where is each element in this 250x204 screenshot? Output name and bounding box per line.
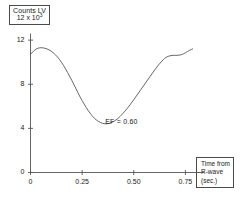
x-axis-tick-label: 0.50	[119, 178, 149, 185]
chart-annotation: EF = 0.60	[105, 118, 137, 125]
data-series-line	[31, 48, 193, 124]
y-axis-tick-label: 12	[17, 36, 25, 43]
y-axis-tick-label: 8	[21, 80, 25, 87]
axis-lines	[31, 34, 205, 173]
y-axis-tick-label: 4	[21, 124, 25, 131]
y-axis-tick-label: 0	[21, 168, 25, 175]
x-axis-tick-label: 0	[16, 178, 46, 185]
chart-figure: Counts LV 12 x 103 Time from R-wave (sec…	[0, 0, 250, 204]
plot-area	[0, 0, 250, 204]
x-axis-tick-label: 0.25	[67, 178, 97, 185]
x-axis-tick-label: 0.75	[170, 178, 200, 185]
